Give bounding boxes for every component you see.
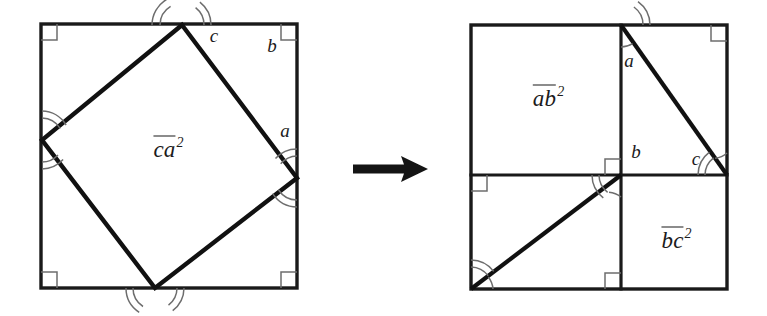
right-angle-marker-lower-left-top [471,175,487,191]
right-angle-marker-top-right [281,24,297,40]
area-label-bc-squared: bc2 [661,227,690,252]
area-label-bc-exponent: 2 [685,225,692,240]
right-label-a: a [624,50,634,71]
pythagorean-proof-figure: c b a [0,0,767,316]
angle-arc-lower-bottom-a [471,267,488,276]
right-angle-marker-top-right-panel [711,25,727,41]
right-angle-marker-top-left [41,24,57,40]
angle-arc-upper-vertex-a [634,7,643,25]
right-angle-marker-bottom-right [281,272,297,288]
right-label-b: b [631,141,641,162]
angle-arc-top-left-a [160,6,171,25]
transform-arrow [353,156,428,182]
left-label-b: b [267,35,277,56]
right-angle-marker-b-vertex [605,159,621,175]
angle-arc-bottom-left-a [133,288,143,307]
arrow-icon [353,156,428,182]
figure-canvas: c b a [0,0,767,316]
area-label-ca-base: ca [153,136,175,161]
angle-arc-upper-vertex-inner [621,44,633,47]
angle-arc-lower-bottom-c [488,277,493,289]
angle-arc-lower-top-c [609,192,621,197]
angle-arc-c-vertex-c [715,153,727,158]
right-label-c: c [692,148,701,169]
area-label-ca-squared: ca2 [153,136,182,161]
area-label-ab-exponent: 2 [557,83,564,98]
left-label-c: c [210,25,219,46]
angle-arc-bottom-right-a [169,288,178,305]
area-label-ab-base: ab [533,85,556,110]
right-angle-marker-lower-bottom [605,273,621,289]
right-angle-marker-bottom-left [41,272,57,288]
angle-arc-c-vertex-a [705,158,714,175]
area-label-ca-exponent: 2 [177,134,184,149]
area-label-ab-squared: ab2 [533,85,563,110]
area-label-bc-base: bc [661,227,683,252]
left-label-a: a [280,120,290,141]
